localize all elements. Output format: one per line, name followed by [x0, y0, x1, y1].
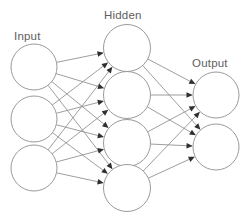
- connection-edge: [56, 74, 103, 88]
- node-hidden-2: [104, 72, 151, 119]
- connection-edge: [143, 113, 199, 171]
- connection-edge: [148, 157, 193, 178]
- edge-group-input-to-hidden: [48, 53, 112, 183]
- connection-edge: [57, 53, 103, 62]
- connection-arrowhead: [97, 148, 104, 153]
- connection-arrowhead: [97, 100, 104, 105]
- connection-arrowhead: [97, 133, 104, 138]
- node-input-1: [11, 44, 57, 90]
- connection-edge: [148, 59, 195, 84]
- node-hidden-3: [104, 120, 151, 167]
- connection-edge: [56, 149, 103, 162]
- connection-arrowhead: [97, 179, 104, 184]
- connection-arrowhead: [106, 67, 112, 74]
- connection-arrowhead: [101, 168, 108, 174]
- node-output-2: [193, 124, 239, 170]
- layer-label-input: Input: [14, 30, 41, 42]
- neural-network-diagram: Input Hidden Output: [0, 0, 242, 219]
- arrowhead-group: [97, 51, 200, 184]
- connection-edge: [48, 68, 112, 150]
- connection-arrowhead: [97, 51, 104, 56]
- neural-network-canvas: Input Hidden Output: [0, 0, 242, 219]
- connection-arrowhead: [187, 92, 193, 98]
- node-hidden-4: [104, 165, 151, 212]
- node-hidden-1: [104, 25, 151, 72]
- connection-edge: [56, 101, 103, 113]
- node-output-1: [193, 72, 239, 118]
- connection-edge: [52, 110, 107, 153]
- connection-edge: [56, 173, 102, 183]
- layer-label-output: Output: [192, 57, 228, 69]
- connection-arrowhead: [107, 163, 113, 170]
- layer-label-hidden: Hidden: [104, 9, 142, 21]
- node-group: [11, 25, 239, 212]
- connection-edge: [148, 107, 195, 132]
- node-input-3: [11, 145, 57, 191]
- connection-arrowhead: [101, 62, 108, 68]
- connection-edge: [150, 144, 191, 146]
- connection-edge: [147, 107, 195, 135]
- connection-arrowhead: [102, 122, 109, 128]
- connection-arrowhead: [186, 143, 192, 149]
- node-input-2: [11, 96, 57, 142]
- connection-arrowhead: [102, 110, 109, 116]
- connection-arrowhead: [189, 130, 196, 136]
